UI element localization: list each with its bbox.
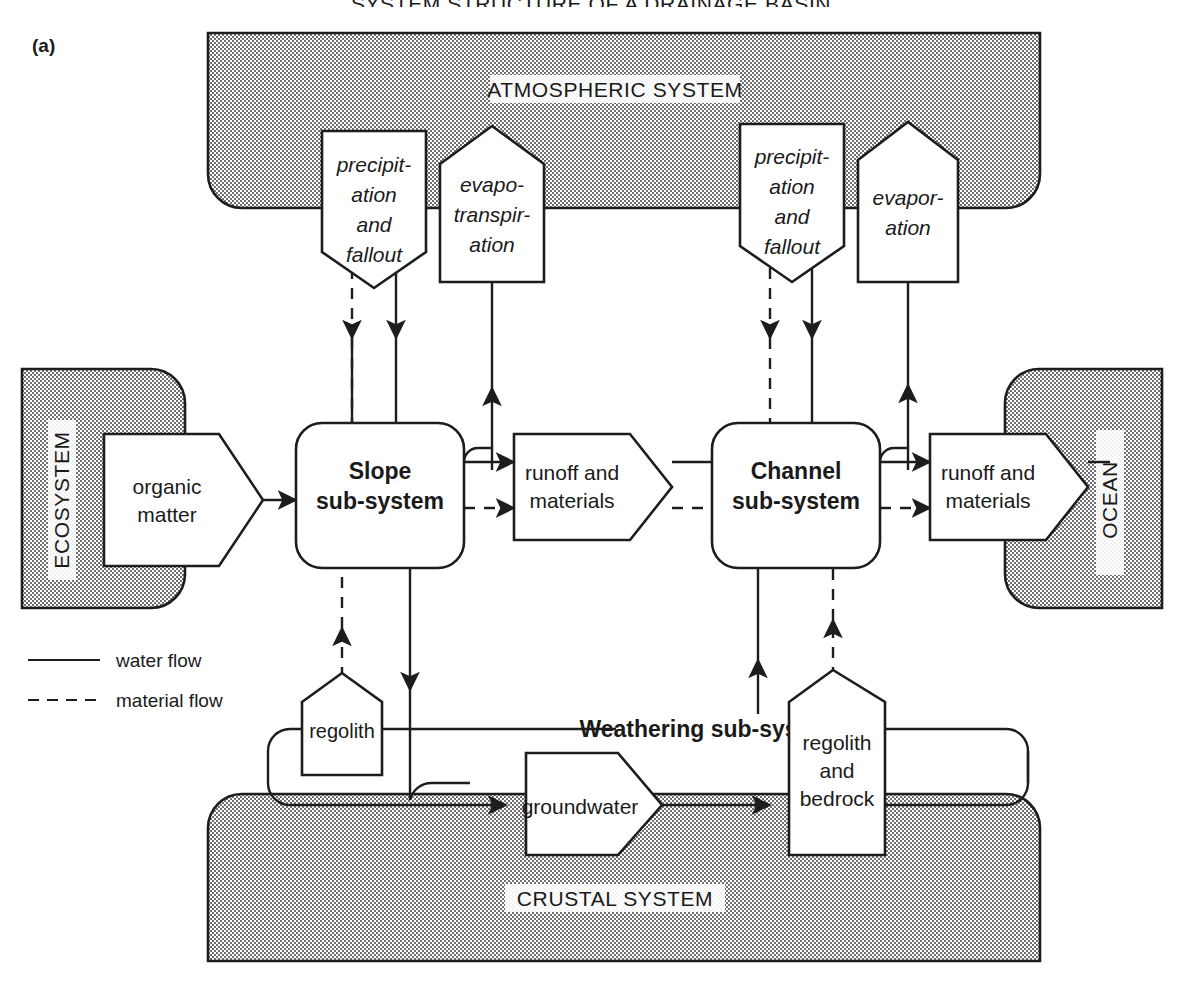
- legend-material-flow-label: material flow: [116, 690, 223, 711]
- channel-subsystem-line2: sub-system: [732, 488, 860, 514]
- precip-right-line2: ation: [769, 175, 815, 198]
- ecosystem-label: ECOSYSTEM: [50, 431, 73, 568]
- regolith-box: regolith: [302, 673, 382, 775]
- precip-left-line1: precipit-: [336, 153, 412, 176]
- slope-subsystem-line1: Slope: [349, 458, 412, 484]
- legend-water-flow-label: water flow: [115, 650, 202, 671]
- runoff-left-line2: materials: [529, 489, 614, 512]
- runoff-right-line2: materials: [945, 489, 1030, 512]
- ocean-label: OCEAN: [1098, 461, 1121, 539]
- regolith-bedrock-box: regolith and bedrock: [789, 670, 885, 855]
- precipitation-fallout-right-box: precipit- ation and fallout: [740, 124, 844, 282]
- figure-top-title-group: SYSTEM STRUCTURE OF A DRAINAGE BASIN: [351, 0, 831, 15]
- slope-subsystem-line2: sub-system: [316, 488, 444, 514]
- evapotranspiration-line1: evapo-: [460, 173, 524, 196]
- runoff-right-line1: runoff and: [941, 461, 1035, 484]
- regolith-bedrock-line3: bedrock: [800, 787, 875, 810]
- precip-right-line3: and: [774, 205, 810, 228]
- crustal-system-label: CRUSTAL SYSTEM: [517, 887, 713, 910]
- runoff-left-line1: runoff and: [525, 461, 619, 484]
- precip-left-line4: fallout: [346, 243, 403, 266]
- evaporation-line1: evapor-: [873, 186, 944, 209]
- evapotranspiration-line3: ation: [469, 233, 515, 256]
- regolith-bedrock-line2: and: [819, 759, 854, 782]
- evaporation-line2: ation: [885, 216, 931, 239]
- figure-top-title: SYSTEM STRUCTURE OF A DRAINAGE BASIN: [351, 0, 831, 15]
- organic-matter-line1: organic: [133, 475, 202, 498]
- channel-subsystem-box: Channel sub-system: [712, 423, 880, 568]
- precipitation-fallout-left-box: precipit- ation and fallout: [322, 131, 426, 288]
- slope-subsystem-box: Slope sub-system: [296, 423, 464, 568]
- organic-matter-box: organic matter: [104, 434, 263, 566]
- precip-left-line2: ation: [351, 183, 397, 206]
- precip-left-line3: and: [356, 213, 392, 236]
- precip-right-line1: precipit-: [754, 145, 830, 168]
- organic-matter-line2: matter: [137, 503, 197, 526]
- figure-canvas: ATMOSPHERIC SYSTEM CRUSTAL SYSTEM ECOSYS…: [0, 0, 1182, 981]
- drainage-basin-diagram: ATMOSPHERIC SYSTEM CRUSTAL SYSTEM ECOSYS…: [0, 0, 1182, 981]
- atmospheric-system-label: ATMOSPHERIC SYSTEM: [487, 78, 742, 101]
- regolith-label: regolith: [309, 720, 375, 742]
- legend: water flow material flow: [28, 650, 223, 711]
- panel-label: (a): [32, 35, 55, 56]
- evapotranspiration-line2: transpir-: [454, 203, 531, 226]
- regolith-bedrock-line1: regolith: [803, 731, 872, 754]
- precip-right-line4: fallout: [764, 235, 821, 258]
- flow-evapotranspiration-left-elbow: [464, 448, 492, 462]
- groundwater-label: groundwater: [522, 795, 639, 818]
- channel-subsystem-line1: Channel: [751, 458, 842, 484]
- runoff-materials-left-box: runoff and materials: [514, 434, 672, 540]
- flow-evaporation-right-elbow: [880, 448, 908, 462]
